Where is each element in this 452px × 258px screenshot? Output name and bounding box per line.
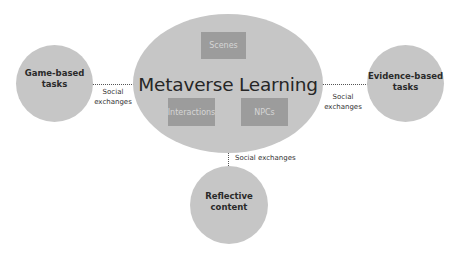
- hub-title: Metaverse Learning: [133, 74, 323, 95]
- hub-metaverse-learning: Scenes Metaverse Learning Interactions N…: [133, 14, 323, 153]
- edge-label-bottom: Social exchanges: [235, 153, 296, 163]
- node-game-based-tasks: Game-based tasks: [16, 45, 93, 122]
- edge-label-right: Social exchanges: [320, 92, 366, 112]
- edge-label-line: exchanges: [92, 97, 134, 107]
- node-evidence-based-tasks-label: Evidence-based tasks: [368, 71, 443, 93]
- connector-left: [92, 84, 134, 85]
- edge-label-line: exchanges: [320, 102, 366, 112]
- component-npcs-label: NPCs: [254, 108, 275, 117]
- node-label-line: content: [205, 202, 253, 213]
- node-label-line: tasks: [25, 79, 85, 90]
- node-game-based-tasks-label: Game-based tasks: [25, 68, 85, 90]
- node-reflective-content-label: Reflective content: [205, 191, 253, 213]
- node-label-line: Evidence-based: [368, 71, 443, 82]
- node-label-line: Reflective: [205, 191, 253, 202]
- component-interactions: Interactions: [168, 98, 215, 126]
- connector-bottom: [228, 152, 229, 166]
- connector-right: [322, 84, 368, 85]
- component-interactions-label: Interactions: [168, 108, 216, 117]
- edge-label-line: Social: [320, 92, 366, 102]
- node-label-line: Game-based: [25, 68, 85, 79]
- edge-label-left: Social exchanges: [92, 87, 134, 107]
- edge-label-line: Social: [92, 87, 134, 97]
- node-evidence-based-tasks: Evidence-based tasks: [367, 45, 444, 122]
- component-scenes: Scenes: [201, 32, 246, 59]
- node-label-line: tasks: [368, 82, 443, 93]
- component-scenes-label: Scenes: [209, 41, 238, 50]
- component-npcs: NPCs: [241, 98, 288, 126]
- node-reflective-content: Reflective content: [190, 166, 268, 244]
